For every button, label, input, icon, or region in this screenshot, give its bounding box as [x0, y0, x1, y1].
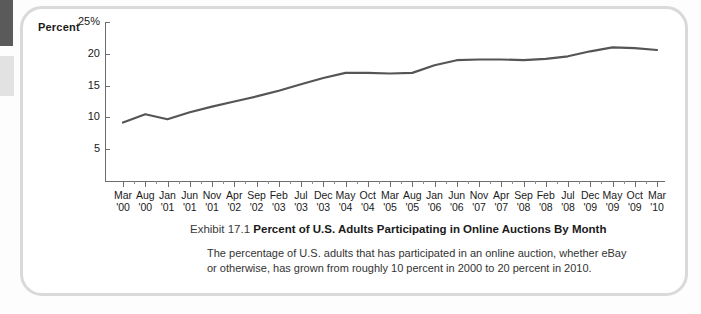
series-line-online-auctions — [123, 47, 657, 122]
exhibit-caption-title: Exhibit 17.1 Percent of U.S. Adults Part… — [190, 222, 660, 236]
exhibit-page: Percent 510152025% Mar'00Aug'00Jan'01Jun… — [0, 0, 701, 314]
exhibit-caption-body: The percentage of U.S. adults that has p… — [207, 246, 627, 276]
line-chart: Percent 510152025% Mar'00Aug'00Jan'01Jun… — [0, 0, 701, 215]
exhibit-title: Percent of U.S. Adults Participating in … — [253, 223, 606, 235]
series-line-svg — [0, 0, 701, 215]
exhibit-number: Exhibit 17.1 — [190, 223, 250, 235]
